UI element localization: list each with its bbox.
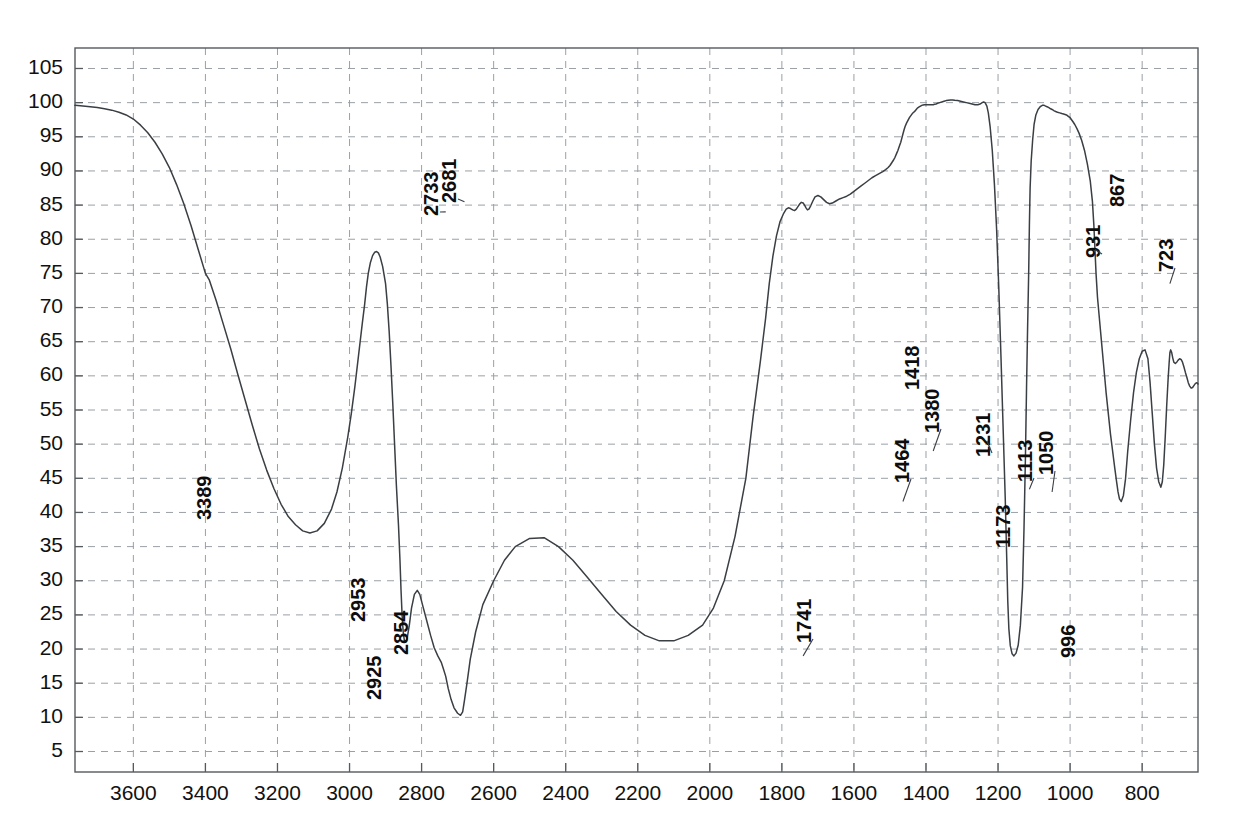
x-tick-label: 3400 — [182, 781, 229, 804]
x-tick-label: 1000 — [1047, 781, 1094, 804]
peak-label-1380: 1380 — [921, 389, 943, 434]
peak-label-3389: 3389 — [193, 476, 215, 521]
peak-label-2681: 2681 — [438, 159, 460, 204]
y-tick-label: 40 — [40, 499, 63, 522]
peak-annotation: 2925 — [363, 656, 385, 701]
y-tick-label: 65 — [40, 328, 63, 351]
peak-annotation: 1113 — [1014, 440, 1036, 490]
peak-annotation: 2854 — [390, 610, 412, 655]
x-tick-label: 3600 — [110, 781, 157, 804]
peak-label-1173: 1173 — [992, 505, 1014, 548]
ir-spectrum-chart: 5101520253035404550556065707580859095100… — [0, 0, 1233, 838]
y-tick-label: 85 — [40, 192, 63, 215]
peak-label-2854: 2854 — [390, 610, 412, 655]
peak-annotation: 1231 — [972, 413, 994, 458]
y-tick-label: 30 — [40, 567, 63, 590]
y-tick-label: 60 — [40, 362, 63, 385]
x-tick-label: 800 — [1125, 781, 1160, 804]
peak-annotation: 1418 — [901, 346, 923, 391]
y-tick-label: 5 — [51, 738, 63, 761]
peak-annotation: 867 — [1106, 174, 1128, 207]
x-tick-label: 3000 — [326, 781, 373, 804]
chart-background — [0, 0, 1233, 838]
y-tick-label: 70 — [40, 294, 63, 317]
y-tick-label: 35 — [40, 533, 63, 556]
y-tick-label: 90 — [40, 157, 63, 180]
y-tick-label: 55 — [40, 397, 63, 420]
x-tick-label: 3200 — [254, 781, 301, 804]
y-tick-label: 20 — [40, 636, 63, 659]
x-tick-label: 2000 — [686, 781, 733, 804]
y-tick-label: 50 — [40, 431, 63, 454]
x-tick-label: 2400 — [542, 781, 589, 804]
peak-label-1113: 1113 — [1014, 440, 1036, 482]
peak-label-996: 996 — [1057, 625, 1079, 658]
y-tick-label: 75 — [40, 260, 63, 283]
x-tick-label: 1800 — [759, 781, 806, 804]
peak-label-1050: 1050 — [1035, 431, 1057, 476]
peak-annotation: 1173 — [992, 505, 1014, 548]
y-tick-label: 10 — [40, 704, 63, 727]
y-tick-label: 15 — [40, 670, 63, 693]
x-tick-label: 2200 — [614, 781, 661, 804]
y-tick-label: 105 — [28, 55, 63, 78]
x-tick-label: 2800 — [398, 781, 445, 804]
peak-annotation: 996 — [1057, 625, 1079, 658]
y-tick-label: 25 — [40, 601, 63, 624]
peak-annotation: 2953 — [347, 578, 369, 623]
x-axis-tick-labels: 3600340032003000280026002400220020001800… — [110, 781, 1160, 804]
y-tick-label: 95 — [40, 123, 63, 146]
y-tick-label: 100 — [28, 89, 63, 112]
x-tick-label: 1400 — [903, 781, 950, 804]
peak-annotation: 3389 — [193, 476, 215, 521]
x-tick-label: 1200 — [975, 781, 1022, 804]
peak-label-867: 867 — [1106, 174, 1128, 207]
y-tick-label: 45 — [40, 465, 63, 488]
x-tick-label: 1600 — [831, 781, 878, 804]
peak-label-2953: 2953 — [347, 578, 369, 623]
y-tick-label: 80 — [40, 226, 63, 249]
peak-label-1464: 1464 — [891, 438, 913, 483]
spectrum-svg-canvas: 5101520253035404550556065707580859095100… — [0, 0, 1233, 838]
peak-label-2925: 2925 — [363, 656, 385, 701]
peak-label-1741: 1741 — [793, 599, 815, 644]
peak-annotation: 931 — [1082, 225, 1104, 258]
x-tick-label: 2600 — [470, 781, 517, 804]
peak-label-1418: 1418 — [901, 346, 923, 391]
peak-label-723: 723 — [1155, 239, 1177, 272]
